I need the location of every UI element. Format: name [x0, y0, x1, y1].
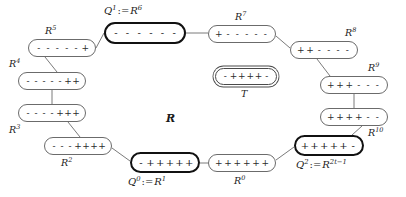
- node-R5[interactable]: -----+: [28, 39, 96, 57]
- sign-minus: -: [223, 30, 232, 39]
- sign-minus: -: [242, 30, 251, 39]
- node-R4[interactable]: -----++: [18, 72, 86, 90]
- sign-plus: +: [296, 46, 305, 55]
- sign-plus: +: [254, 72, 262, 81]
- sign-plus: +: [229, 72, 237, 81]
- sign-plus: +: [72, 77, 80, 86]
- sign-plus: +: [165, 158, 175, 168]
- node-R7[interactable]: +-----: [208, 25, 276, 43]
- label-assign-operator: :=: [117, 5, 131, 16]
- sign-minus: -: [110, 28, 122, 38]
- node-label-R0: R0: [234, 175, 245, 186]
- sign-minus: -: [363, 113, 372, 122]
- sign-plus: +: [251, 159, 260, 168]
- edge-R5-R6: [96, 33, 104, 48]
- node-T[interactable]: -++++-: [215, 68, 277, 85]
- node-R0[interactable]: ++++++: [208, 154, 276, 172]
- sign-plus: +: [354, 113, 363, 122]
- node-R2[interactable]: ---++++: [44, 137, 112, 155]
- node-label-R2: R2: [61, 157, 72, 168]
- edge-R2-R1: [112, 148, 130, 161]
- center-label-R: R: [166, 112, 175, 125]
- sign-plus: +: [310, 141, 320, 151]
- label-superscript: 4: [16, 57, 20, 65]
- label-base: Q: [104, 5, 112, 16]
- node-signs-T: -++++-: [221, 72, 271, 81]
- sign-minus: -: [40, 109, 48, 118]
- sign-plus: +: [238, 72, 246, 81]
- sign-minus: -: [24, 77, 32, 86]
- edge-R8-R7: [276, 36, 290, 48]
- node-label-R9: R9: [368, 62, 379, 73]
- label-superscript: 2: [68, 156, 72, 164]
- node-signs-R7: +-----: [214, 30, 270, 39]
- node-label-T: T: [241, 88, 247, 99]
- sign-minus: -: [34, 44, 43, 53]
- node-signs-R2: ---++++: [50, 142, 106, 151]
- sign-minus: -: [32, 77, 40, 86]
- sign-plus: +: [335, 81, 344, 90]
- label-superscript: 7: [242, 10, 246, 18]
- sign-plus: +: [82, 142, 90, 151]
- sign-plus: +: [90, 142, 98, 151]
- sign-plus: +: [81, 44, 90, 53]
- sign-minus: -: [373, 113, 382, 122]
- node-R9[interactable]: +++---: [320, 76, 388, 94]
- sign-minus: -: [363, 81, 372, 90]
- node-R2t-1[interactable]: +++++-: [294, 135, 364, 156]
- label-superscript: 3: [16, 123, 20, 131]
- node-signs-R9: +++---: [326, 81, 382, 90]
- sign-minus: -: [168, 28, 180, 38]
- sign-minus: -: [56, 77, 64, 86]
- label-alias-superscript: 2t−1: [330, 158, 347, 166]
- sign-plus: +: [64, 109, 72, 118]
- sign-plus: +: [98, 142, 106, 151]
- sign-plus: +: [345, 113, 354, 122]
- node-R3[interactable]: ----+++: [18, 104, 86, 122]
- sign-plus: +: [155, 158, 165, 168]
- sign-minus: -: [145, 28, 157, 38]
- node-R1[interactable]: -+++++: [130, 152, 200, 173]
- label-alias-superscript: 6: [138, 4, 142, 12]
- sign-minus: -: [261, 30, 270, 39]
- sign-plus: +: [64, 77, 72, 86]
- sign-minus: -: [122, 28, 134, 38]
- node-label-R5: R5: [45, 25, 56, 36]
- label-alias-base: R: [154, 176, 162, 187]
- node-signs-R4: -----++: [24, 77, 80, 86]
- label-alias-base: R: [322, 159, 330, 170]
- sign-plus: +: [326, 113, 335, 122]
- node-signs-R1: -+++++: [136, 158, 194, 168]
- sign-plus: +: [335, 113, 344, 122]
- label-superscript: 1: [112, 4, 116, 12]
- label-superscript: 0: [136, 175, 140, 183]
- node-signs-R2t-1: +++++-: [300, 141, 358, 151]
- sign-minus: -: [373, 81, 382, 90]
- label-superscript: 5: [52, 24, 56, 32]
- sign-minus: -: [251, 30, 260, 39]
- node-R10[interactable]: ++++--: [320, 108, 388, 126]
- node-label-R1: Q0:=R1: [128, 176, 166, 187]
- label-alias-superscript: 1: [162, 175, 166, 183]
- sign-minus: -: [354, 81, 363, 90]
- node-R6[interactable]: ------: [104, 22, 186, 44]
- label-base: Q: [296, 159, 304, 170]
- sign-plus: +: [329, 141, 339, 151]
- sign-plus: +: [319, 141, 329, 151]
- node-label-R7: R7: [235, 11, 246, 22]
- node-signs-R3: ----+++: [24, 109, 80, 118]
- sign-minus: -: [24, 109, 32, 118]
- sign-minus: -: [48, 77, 56, 86]
- label-superscript: 10: [375, 126, 383, 134]
- sign-plus: +: [175, 158, 185, 168]
- sign-minus: -: [66, 142, 74, 151]
- sign-plus: +: [146, 158, 156, 168]
- node-signs-R6: ------: [110, 28, 180, 38]
- edge-R4-R5: [45, 57, 57, 72]
- label-superscript: 8: [352, 26, 356, 34]
- node-label-R4: R4: [9, 58, 20, 69]
- label-superscript: 0: [241, 174, 245, 182]
- node-R8[interactable]: ++----: [290, 41, 358, 59]
- edge-R3-R2: [68, 122, 80, 137]
- sign-plus: +: [184, 158, 194, 168]
